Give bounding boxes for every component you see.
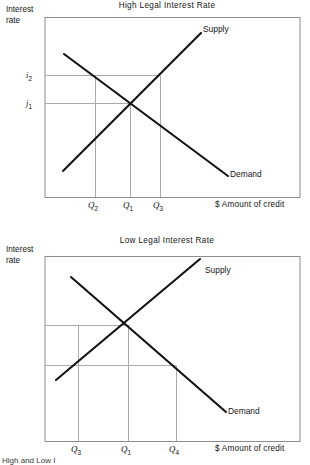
figure-supply-demand-interest-rate: High Legal Interest Rate Interest rate i… xyxy=(0,0,310,465)
plot-area-low xyxy=(0,232,310,465)
tick-label-i2-high-sub: 2 xyxy=(28,75,32,82)
tick-label-q3-low-sub: 3 xyxy=(78,449,82,456)
demand-curve-high xyxy=(64,54,228,176)
tick-label-q3-high-sub: 3 xyxy=(160,205,164,212)
tick-label-i1-high: j1 xyxy=(26,98,32,110)
tick-label-q4-low-sub: 4 xyxy=(176,449,180,456)
figure-caption: High and Low I xyxy=(2,456,232,465)
demand-curve-low xyxy=(71,277,226,412)
supply-curve-high xyxy=(63,33,201,171)
tick-label-q1-high: Q1 xyxy=(123,200,133,212)
tick-label-i1-high-sub: 1 xyxy=(28,103,32,110)
curve-label-supply-low: Supply xyxy=(205,265,231,275)
tick-label-i2-high: i2 xyxy=(26,70,32,82)
tick-label-q3-low: Q3 xyxy=(71,444,81,456)
tick-label-q2-high-sub: 2 xyxy=(95,205,99,212)
curve-label-supply-high: Supply xyxy=(203,24,229,34)
tick-label-q1-low: Q1 xyxy=(121,444,131,456)
tick-label-q4-low: Q4 xyxy=(169,444,179,456)
curve-label-demand-low: Demand xyxy=(228,406,260,416)
x-axis-caption-high: $ Amount of credit xyxy=(215,200,285,209)
tick-label-q3-high: Q3 xyxy=(153,200,163,212)
plot-area-high xyxy=(0,0,310,232)
chart-panel-low-legal-interest-rate: Low Legal Interest Rate Interest rate i1… xyxy=(0,232,310,465)
tick-label-q1-low-sub: 1 xyxy=(128,449,132,456)
chart-panel-high-legal-interest-rate: High Legal Interest Rate Interest rate i… xyxy=(0,0,310,232)
tick-label-q1-high-sub: 1 xyxy=(130,205,134,212)
tick-label-q2-high: Q2 xyxy=(88,200,98,212)
plot-frame-low xyxy=(45,257,300,442)
x-axis-caption-low: $ Amount of credit xyxy=(215,444,285,453)
curve-label-demand-high: Demand xyxy=(230,169,262,179)
